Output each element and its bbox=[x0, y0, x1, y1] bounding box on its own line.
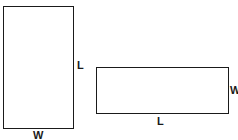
tall-rectangle bbox=[3, 6, 74, 129]
tall-rectangle-width-label: W bbox=[33, 130, 43, 140]
tall-rectangle-length-label: L bbox=[77, 60, 84, 71]
wide-rectangle bbox=[96, 67, 229, 114]
wide-rectangle-width-label: W bbox=[230, 85, 238, 96]
wide-rectangle-length-label: L bbox=[157, 116, 164, 127]
